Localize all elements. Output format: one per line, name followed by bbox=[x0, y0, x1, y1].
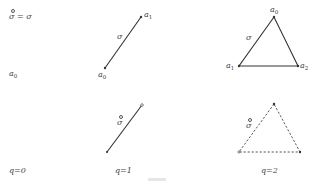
definition-label: σ = σ bbox=[9, 12, 32, 22]
vertex-dot bbox=[238, 65, 240, 67]
edge-q1-top bbox=[104, 16, 142, 69]
vertex-label-a0-q1: a0 bbox=[98, 70, 106, 82]
column-label-q1: q=1 bbox=[115, 166, 132, 175]
vertex-label-a1-q1: a1 bbox=[144, 10, 152, 22]
column-label-q2: q=2 bbox=[261, 166, 278, 175]
edge-label-q1-bottom: σ bbox=[117, 118, 122, 128]
vertex-dot bbox=[106, 151, 108, 153]
vertex-dot bbox=[273, 103, 275, 105]
vertex-hollow bbox=[141, 104, 144, 107]
vertex-label-a0-q2: a0 bbox=[270, 5, 278, 17]
diagram-lines bbox=[0, 0, 316, 184]
edge-label-q2-top: σ bbox=[246, 33, 251, 43]
vertex-hollow bbox=[238, 151, 240, 153]
simplex-diagram: σ = σ a0 a1 a0 σ a0 a1 a2 σ σ σ q=0 q=1 … bbox=[0, 0, 316, 184]
vertex-dot bbox=[140, 16, 142, 18]
vertex-dot bbox=[104, 67, 106, 69]
edge-label-q2-bottom: σ bbox=[246, 121, 251, 131]
vertex-label-a2-q2: a2 bbox=[300, 61, 308, 73]
edge-q1-bottom bbox=[106, 104, 143, 153]
vertex-dot bbox=[297, 65, 299, 67]
vertex-dot bbox=[299, 151, 301, 153]
vertex-label-a1-q2: a1 bbox=[226, 61, 234, 73]
figure-caption-fragment bbox=[148, 178, 166, 181]
column-label-q0: q=0 bbox=[9, 166, 26, 175]
edge-label-q1-top: σ bbox=[117, 32, 122, 42]
definition-rhs: = σ bbox=[17, 12, 32, 21]
dual-sigma-symbol: σ bbox=[9, 12, 14, 22]
vertex-label-q0: a0 bbox=[9, 69, 17, 81]
